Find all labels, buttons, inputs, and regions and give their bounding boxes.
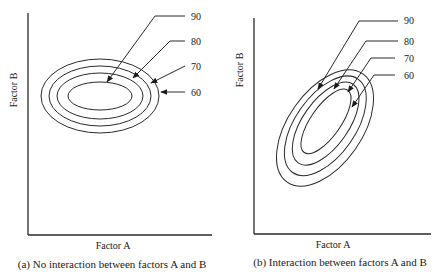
caption-a: (a) No interaction between factors A and… bbox=[18, 258, 206, 271]
panel-a: 90 80 70 60 Factor B Factor A (a) No int… bbox=[8, 11, 212, 271]
contour-80 bbox=[279, 71, 372, 176]
contour-70 bbox=[268, 62, 383, 190]
y-axis-label: Factor B bbox=[234, 52, 245, 87]
contour-60 bbox=[257, 53, 393, 204]
label-90: 90 bbox=[404, 15, 414, 26]
label-70: 70 bbox=[404, 53, 414, 64]
contour-diagram: 90 80 70 60 Factor B Factor A (a) No int… bbox=[0, 0, 443, 278]
contour-90 bbox=[68, 82, 132, 110]
arrow-70 bbox=[151, 66, 185, 83]
leaders-a bbox=[107, 16, 185, 92]
leaders-b bbox=[318, 21, 398, 107]
x-axis-label: Factor A bbox=[316, 239, 351, 250]
contour-90 bbox=[292, 82, 360, 161]
label-80: 80 bbox=[404, 36, 414, 47]
x-axis-label: Factor A bbox=[96, 240, 131, 251]
label-60: 60 bbox=[191, 87, 201, 98]
panel-b: 90 80 70 60 Factor B Factor A (b) Intera… bbox=[234, 15, 431, 269]
contour-80 bbox=[57, 73, 143, 119]
caption-b: (b) Interaction between factors A and B bbox=[253, 256, 427, 269]
y-axis-label: Factor B bbox=[8, 72, 19, 107]
arrow-80 bbox=[133, 41, 185, 78]
contours-b bbox=[257, 53, 393, 204]
label-60: 60 bbox=[404, 70, 414, 81]
label-80: 80 bbox=[191, 36, 201, 47]
label-90: 90 bbox=[191, 11, 201, 22]
label-70: 70 bbox=[191, 61, 201, 72]
